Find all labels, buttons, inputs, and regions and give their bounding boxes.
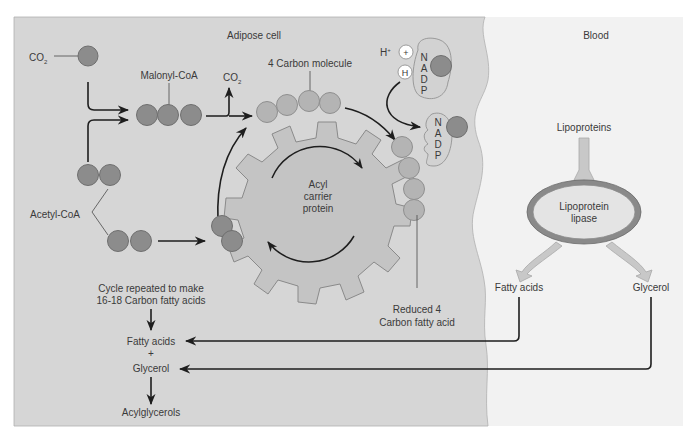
co2-molecule bbox=[78, 46, 98, 66]
acetyl-coa-label: Acetyl-CoA bbox=[30, 209, 80, 220]
svg-text:+: + bbox=[148, 348, 154, 359]
acetyl-coa-molecule bbox=[131, 231, 152, 252]
glycerol-blood-label: Glycerol bbox=[633, 282, 670, 293]
glycerol-cell-label: Glycerol bbox=[133, 363, 170, 374]
acetyl-on-carrier bbox=[222, 231, 243, 252]
svg-text:A: A bbox=[435, 128, 442, 139]
svg-text:P: P bbox=[421, 85, 428, 96]
svg-text:H: H bbox=[402, 68, 409, 78]
fatty-acids-cell-label: Fatty acids bbox=[127, 336, 175, 347]
malonyl-coa-label: Malonyl-CoA bbox=[140, 70, 198, 81]
reduced-label-2: Carbon fatty acid bbox=[379, 317, 455, 328]
svg-text:A: A bbox=[421, 63, 428, 74]
reduced-fatty-acid-molecule bbox=[404, 200, 425, 221]
svg-text:D: D bbox=[420, 74, 427, 85]
four-carbon-label: 4 Carbon molecule bbox=[268, 58, 352, 69]
lipoprotein-lipase: Lipoprotein lipase bbox=[527, 180, 641, 244]
svg-text:D: D bbox=[434, 139, 441, 150]
svg-text:Lipoprotein: Lipoprotein bbox=[559, 201, 608, 212]
svg-text:lipase: lipase bbox=[571, 213, 598, 224]
malonyl-coa-molecule bbox=[181, 105, 202, 126]
cell-title: Adipose cell bbox=[227, 30, 281, 41]
reduced-label-1: Reduced 4 bbox=[393, 304, 442, 315]
acyl-carrier-label-1: Acyl bbox=[309, 179, 328, 190]
cycle-label-2: 16-18 Carbon fatty acids bbox=[97, 295, 206, 306]
fatty-acid-synthesis-diagram: Adipose cell Blood CO2 Malonyl-CoA CO2 A… bbox=[0, 0, 690, 441]
svg-text:N: N bbox=[434, 117, 441, 128]
cycle-label-1: Cycle repeated to make bbox=[98, 283, 204, 294]
acyl-carrier-label-3: protein bbox=[303, 203, 334, 214]
acylglycerols-label: Acylglycerols bbox=[122, 407, 180, 418]
svg-text:P: P bbox=[435, 150, 442, 161]
blood-title: Blood bbox=[583, 30, 609, 41]
fatty-acids-blood-label: Fatty acids bbox=[495, 282, 543, 293]
four-carbon-molecule bbox=[320, 93, 341, 114]
svg-text:+: + bbox=[403, 48, 408, 58]
lipoproteins-label: Lipoproteins bbox=[557, 122, 611, 133]
svg-text:N: N bbox=[420, 52, 427, 63]
acyl-carrier-label-2: carrier bbox=[304, 191, 333, 202]
